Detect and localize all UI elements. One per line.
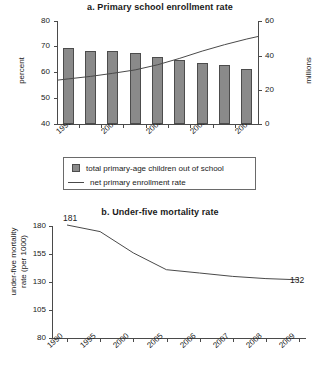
chart-a-plot-area: 40 50 60 70 80 0 20 40 60 1999 2001 2003…: [0, 0, 320, 150]
chart-b-annotation-start: 181: [63, 214, 77, 222]
chart-a-legend: total primary-age children out of school…: [63, 157, 256, 190]
chart-b-annotation-end: 132: [290, 276, 304, 284]
chart-a-enrollment-line: [0, 0, 320, 150]
legend-item-bars: total primary-age children out of school: [72, 162, 224, 174]
chart-panel-under-five-mortality: b. Under-five mortality rate under-five …: [0, 196, 320, 376]
chart-panel-primary-enrollment: a. Primary school enrollment rate percen…: [0, 0, 320, 196]
legend-line-label: net primary enrollment rate: [90, 178, 186, 187]
chart-b-plot-area: 80 105 130 155 180 1990 1995 2000 2005 2…: [0, 196, 320, 376]
chart-b-mortality-line: [0, 196, 320, 376]
legend-bar-label: total primary-age children out of school: [86, 164, 224, 173]
legend-item-line: net primary enrollment rate: [72, 176, 186, 188]
legend-bar-swatch-icon: [72, 164, 80, 172]
legend-line-swatch-icon: [72, 182, 84, 183]
